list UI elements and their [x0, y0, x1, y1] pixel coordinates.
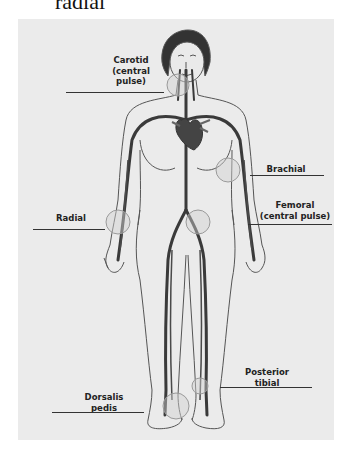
label-posterior-tibial: Posterior tibial: [242, 367, 292, 388]
radial-pulse-marker: [106, 210, 130, 234]
leader-line-radial: [33, 229, 105, 230]
label-carotid: Carotid (central pulse): [96, 55, 166, 87]
label-femoral: Femoral (central pulse): [250, 200, 340, 221]
leader-line-carotid: [66, 92, 164, 93]
posterior-tibial-pulse-marker: [192, 378, 208, 394]
dorsalis-pedis-pulse-marker: [163, 393, 189, 419]
carotid-pulse-marker: [167, 74, 189, 96]
femoral-pulse-marker: [186, 210, 210, 234]
label-dorsalis-pedis: Dorsalis pedis: [74, 392, 134, 413]
label-brachial: Brachial: [256, 164, 316, 175]
human-body-figure: [0, 0, 347, 451]
label-radial: Radial: [46, 213, 96, 224]
leader-line-posterior-tibial: [220, 387, 312, 388]
leader-line-femoral: [248, 224, 332, 225]
brachial-pulse-marker: [216, 158, 240, 182]
leader-line-dorsalis-pedis: [52, 412, 144, 413]
leader-line-brachial: [250, 175, 324, 176]
